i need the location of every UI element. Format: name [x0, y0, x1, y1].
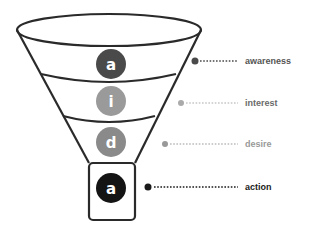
callout-dot — [145, 184, 152, 191]
stage-letter: a — [106, 180, 116, 198]
callout-desire: desire — [162, 139, 272, 149]
stage-letter: a — [106, 56, 116, 74]
stage-desire: d — [96, 127, 126, 157]
callout-awareness: awareness — [192, 56, 292, 66]
funnel-rim — [17, 14, 201, 46]
stage-letter: d — [106, 134, 117, 152]
funnel-band-divider-2 — [63, 116, 155, 122]
callout-label: desire — [245, 139, 272, 149]
stage-interest: i — [96, 86, 126, 116]
aida-funnel-diagram: a i d a awareness interest desire action — [0, 0, 312, 237]
callout-interest: interest — [178, 98, 278, 108]
callout-action: action — [145, 182, 272, 192]
callout-label: awareness — [245, 56, 291, 66]
stage-action: a — [96, 173, 126, 203]
callout-dot — [192, 58, 199, 65]
stage-awareness: a — [96, 49, 126, 79]
funnel-right-side — [135, 30, 201, 163]
stage-letter: i — [108, 93, 113, 111]
callout-dot — [162, 141, 168, 147]
callout-label: action — [245, 182, 272, 192]
callout-label: interest — [245, 98, 278, 108]
callout-dot — [178, 100, 184, 106]
funnel-left-side — [17, 30, 89, 163]
